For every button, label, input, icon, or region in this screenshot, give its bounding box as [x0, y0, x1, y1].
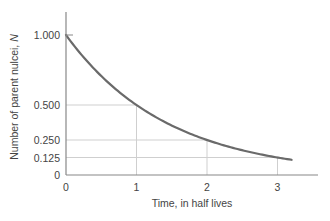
y-tick-labels: 00.1250.2500.5001.000	[34, 29, 60, 181]
x-tick-labels: 0123	[63, 181, 281, 193]
x-tick-label: 3	[275, 181, 281, 193]
y-axis-label: Number of parent nulcei, N	[8, 34, 20, 160]
y-tick-label: 1.000	[34, 29, 60, 41]
reference-lines	[66, 105, 278, 175]
y-tick-label: 0	[54, 169, 60, 181]
y-tick-label: 0.500	[34, 99, 60, 111]
decay-curve	[66, 35, 292, 160]
y-tick-label: 0.125	[34, 152, 60, 164]
y-tick-label: 0.250	[34, 134, 60, 146]
x-tick-label: 2	[204, 181, 210, 193]
x-tick-label: 0	[63, 181, 69, 193]
x-axis-label: Time, in half lives	[152, 197, 233, 209]
x-tick-label: 1	[134, 181, 140, 193]
decay-chart: 00.1250.2500.5001.000 0123 Time, in half…	[0, 0, 330, 221]
